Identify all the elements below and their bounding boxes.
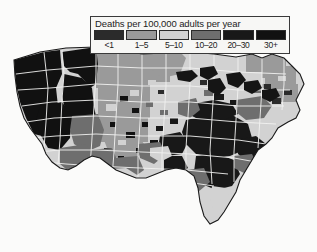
legend-entry-under-1: <1 bbox=[94, 30, 124, 50]
figure-choropleth-map: Deaths per 100,000 adults per year <1 1–… bbox=[0, 0, 317, 252]
legend-swatch-10-20 bbox=[191, 30, 221, 40]
legend-swatch-1-5 bbox=[126, 30, 156, 40]
legend-label-20-30: 20–30 bbox=[223, 40, 253, 50]
us-county-choropleth-svg bbox=[0, 44, 317, 244]
legend-box: Deaths per 100,000 adults per year <1 1–… bbox=[90, 16, 290, 54]
legend-label-30-plus: 30+ bbox=[256, 40, 286, 50]
legend-label-5-10: 5–10 bbox=[159, 40, 189, 50]
legend-swatch-under-1 bbox=[94, 30, 124, 40]
legend-swatch-row: <1 1–5 5–10 10–20 20–30 30+ bbox=[94, 30, 286, 50]
legend-title: Deaths per 100,000 adults per year bbox=[94, 18, 286, 29]
legend-label-10-20: 10–20 bbox=[191, 40, 221, 50]
legend-swatch-5-10 bbox=[159, 30, 189, 40]
legend-swatch-20-30 bbox=[223, 30, 253, 40]
legend-entry-1-5: 1–5 bbox=[126, 30, 156, 50]
map-canvas bbox=[0, 44, 317, 244]
county-fill-layer bbox=[0, 44, 317, 244]
legend-entry-5-10: 5–10 bbox=[159, 30, 189, 50]
legend-entry-20-30: 20–30 bbox=[223, 30, 253, 50]
legend-swatch-30-plus bbox=[256, 30, 286, 40]
legend-label-under-1: <1 bbox=[94, 40, 124, 50]
legend-entry-10-20: 10–20 bbox=[191, 30, 221, 50]
legend-label-1-5: 1–5 bbox=[126, 40, 156, 50]
legend-entry-30-plus: 30+ bbox=[256, 30, 286, 50]
